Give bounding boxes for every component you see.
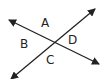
diagram-canvas (0, 0, 106, 79)
angle-label-c: C (46, 54, 54, 66)
angle-label-b: B (20, 38, 28, 50)
angle-label-d: D (68, 34, 77, 46)
angle-label-a: A (41, 17, 49, 29)
